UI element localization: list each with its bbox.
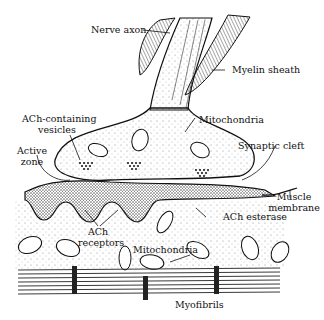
- myofibrils-bands: [18, 268, 280, 294]
- label-ach-vesicles: ACh-containing vesicles: [22, 113, 92, 135]
- label-myofibrils: Myofibrils: [175, 299, 224, 310]
- label-synaptic-cleft: Synaptic cleft: [238, 140, 304, 151]
- label-active-zone: Active zone: [14, 145, 50, 167]
- label-nerve-axon: Nerve axon: [91, 24, 146, 35]
- label-muscle-membrane: Muscle membrane: [264, 191, 324, 213]
- label-mitochondria-top: Mitochondria: [199, 114, 264, 125]
- label-ach-receptors: ACh receptors: [78, 226, 118, 248]
- label-mitochondria-bottom: Mitochondria: [133, 244, 198, 255]
- label-ach-esterase: ACh esterase: [223, 211, 287, 222]
- label-myelin-sheath: Myelin sheath: [232, 64, 300, 75]
- mitochondrion: [119, 246, 131, 270]
